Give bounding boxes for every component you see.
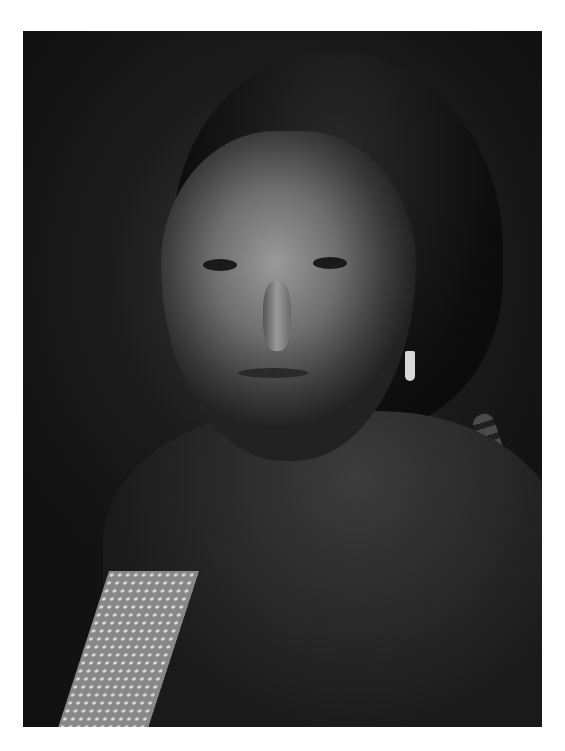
right-eye bbox=[313, 257, 347, 269]
left-eye bbox=[203, 259, 237, 271]
mouth bbox=[238, 368, 308, 378]
earring bbox=[405, 351, 415, 381]
dark-garment bbox=[103, 411, 542, 727]
portrait-photo bbox=[23, 31, 542, 727]
nose bbox=[263, 281, 291, 351]
